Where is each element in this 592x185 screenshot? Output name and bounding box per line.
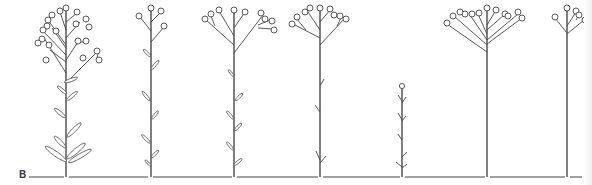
- plant-5: [396, 83, 407, 177]
- plant-1: [35, 5, 102, 177]
- page-edge: [584, 0, 592, 185]
- botanical-figure: B: [0, 0, 592, 185]
- plant-illustration: [0, 0, 592, 185]
- plant-3: [202, 7, 277, 177]
- plant-4: [289, 5, 349, 177]
- plant-7: [552, 5, 588, 177]
- plant-2: [136, 5, 167, 177]
- plant-6: [444, 5, 525, 177]
